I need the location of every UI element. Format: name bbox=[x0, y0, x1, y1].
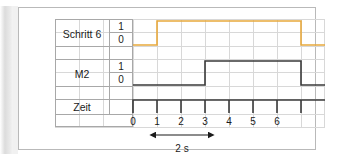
waveform-schritt6 bbox=[133, 21, 325, 45]
timing-grid: Schritt 6 M2 Zeit 1 0 1 0 0 1 2 3 4 5 6 bbox=[55, 19, 325, 128]
page-gutter-shadow bbox=[0, 6, 14, 154]
duration-annotation-label: 2 s bbox=[162, 144, 202, 154]
diagram-card: Schritt 6 M2 Zeit 1 0 1 0 0 1 2 3 4 5 6 bbox=[18, 7, 316, 150]
diagram-page: Schritt 6 M2 Zeit 1 0 1 0 0 1 2 3 4 5 6 bbox=[0, 0, 338, 166]
waveform-m2 bbox=[133, 61, 325, 85]
duration-annotation-arrow bbox=[150, 130, 214, 142]
waveforms bbox=[55, 19, 325, 128]
